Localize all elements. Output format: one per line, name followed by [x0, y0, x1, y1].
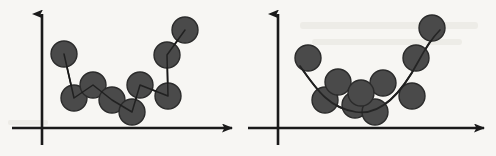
- data-point-marker: [325, 69, 351, 95]
- data-point-marker: [348, 80, 374, 106]
- figure-canvas: [0, 0, 496, 156]
- data-point-marker: [295, 45, 321, 71]
- data-point-marker: [419, 15, 445, 41]
- two-panel-scatter-figure: [0, 0, 496, 156]
